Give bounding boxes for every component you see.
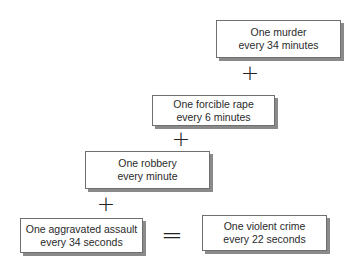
violent-crime-box-line2: every 22 seconds [223, 233, 305, 246]
murder-box: One murder every 34 minutes [216, 20, 341, 58]
robbery-box: One robbery every minute [85, 151, 210, 189]
violent-crime-box: One violent crime every 22 seconds [202, 215, 327, 251]
equals-operator: = [161, 222, 183, 248]
plus-operator-3: + [96, 193, 116, 215]
aggravated-assault-box: One aggravated assault every 34 seconds [20, 218, 143, 253]
aggravated-assault-box-line1: One aggravated assault [26, 223, 138, 236]
robbery-box-line2: every minute [117, 170, 177, 183]
violent-crime-box-line1: One violent crime [224, 220, 306, 233]
forcible-rape-box: One forcible rape every 6 minutes [152, 95, 275, 126]
plus-operator-1: + [240, 62, 260, 84]
aggravated-assault-box-line2: every 34 seconds [40, 236, 122, 249]
murder-box-line2: every 34 minutes [239, 39, 319, 52]
forcible-rape-box-line1: One forcible rape [173, 98, 254, 111]
forcible-rape-box-line2: every 6 minutes [176, 111, 250, 124]
murder-box-line1: One murder [250, 26, 306, 39]
robbery-box-line1: One robbery [118, 157, 176, 170]
plus-operator-2: + [171, 128, 191, 150]
